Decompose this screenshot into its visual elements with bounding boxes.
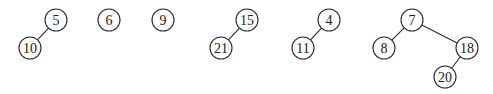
edge-7-8	[392, 28, 404, 40]
node-label: 18	[460, 41, 474, 56]
tree-7	[392, 25, 461, 68]
tree-node-11: 11	[292, 37, 314, 59]
tree-node-8: 8	[373, 37, 395, 59]
tree-node-5: 5	[45, 9, 67, 31]
node-label: 8	[381, 41, 388, 56]
tree-node-4: 4	[318, 9, 340, 31]
node-label: 10	[23, 41, 37, 56]
edge-5-10	[37, 28, 48, 40]
node-label: 21	[214, 41, 228, 56]
edge-7-18	[422, 25, 457, 43]
node-label: 7	[409, 13, 416, 28]
node-label: 9	[160, 13, 167, 28]
nodes-layer: 510691521411781820	[19, 9, 478, 88]
tree-4	[310, 28, 321, 40]
tree-node-7: 7	[401, 9, 423, 31]
edge-15-21	[228, 28, 239, 40]
edge-4-11	[310, 28, 321, 40]
node-label: 6	[106, 13, 113, 28]
node-label: 11	[296, 41, 309, 56]
tree-forest-diagram: 510691521411781820	[0, 0, 493, 94]
tree-node-6: 6	[98, 9, 120, 31]
node-label: 15	[240, 13, 254, 28]
edge-18-20	[452, 57, 461, 68]
tree-node-15: 15	[236, 9, 258, 31]
edges-layer	[37, 25, 460, 68]
tree-node-9: 9	[152, 9, 174, 31]
node-label: 4	[326, 13, 333, 28]
tree-node-20: 20	[434, 66, 456, 88]
tree-15	[228, 28, 239, 40]
tree-node-10: 10	[19, 37, 41, 59]
tree-node-18: 18	[456, 37, 478, 59]
node-label: 5	[53, 13, 60, 28]
node-label: 20	[438, 70, 452, 85]
tree-node-21: 21	[210, 37, 232, 59]
tree-5	[37, 28, 48, 40]
